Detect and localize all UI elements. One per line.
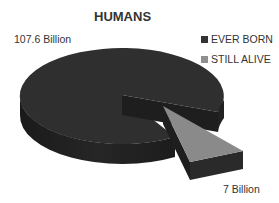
legend: EVER BORN STILL ALIVE: [201, 29, 273, 69]
still-alive-data-label: 7 Billion: [223, 183, 260, 195]
legend-swatch-icon: [201, 56, 208, 63]
legend-item-ever-born: EVER BORN: [201, 29, 273, 49]
legend-item-still-alive: STILL ALIVE: [201, 49, 273, 69]
ever-born-data-label: 107.6 Billion: [14, 33, 71, 45]
legend-label: EVER BORN: [211, 33, 273, 45]
chart-title: HUMANS: [94, 9, 151, 24]
legend-swatch-icon: [201, 36, 208, 43]
legend-label: STILL ALIVE: [211, 53, 271, 65]
